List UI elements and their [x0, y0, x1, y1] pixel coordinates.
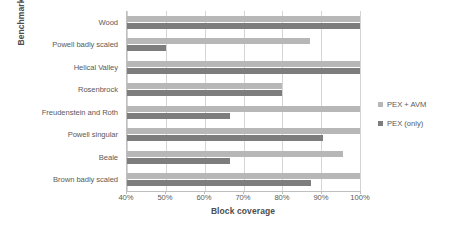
y-axis-tick-labels: WoodPowell badly scaledHelical ValleyRos… — [24, 11, 122, 191]
y-axis-tick-label: Powell singular — [24, 124, 122, 147]
legend-item-label: PEX + AVM — [387, 100, 426, 109]
bar — [127, 151, 343, 157]
legend-item[interactable]: PEX + AVM — [378, 100, 426, 109]
y-axis-tick-label: Powell badly scaled — [24, 34, 122, 57]
x-axis-tick-label: 40% — [118, 193, 133, 202]
legend-item-label: PEX (only) — [387, 119, 423, 128]
legend-swatch-icon — [378, 102, 383, 107]
bar — [127, 68, 360, 74]
bar — [127, 135, 323, 141]
gridline — [360, 11, 361, 191]
bar-groups — [127, 11, 360, 191]
bar — [127, 158, 230, 164]
bar — [127, 61, 360, 67]
bar — [127, 38, 310, 44]
legend-swatch-icon — [378, 121, 383, 126]
bar — [127, 16, 360, 22]
y-axis-tick-label: Wood — [24, 11, 122, 34]
bar — [127, 23, 360, 29]
x-axis-tick-label: 100% — [350, 193, 369, 202]
bar-group — [127, 34, 360, 57]
x-axis-tick-label: 90% — [313, 193, 328, 202]
x-axis-tick-label: 60% — [196, 193, 211, 202]
bar — [127, 106, 360, 112]
bar — [127, 45, 166, 51]
x-axis-tick-label: 70% — [235, 193, 250, 202]
bar-group — [127, 146, 360, 169]
y-axis-tick-label: Helical Valley — [24, 56, 122, 79]
bar — [127, 90, 282, 96]
bar-group — [127, 169, 360, 192]
bar-chart: Benchmark WoodPowell badly scaledHelical… — [0, 0, 453, 228]
bar — [127, 128, 360, 134]
legend-item[interactable]: PEX (only) — [378, 119, 426, 128]
plot-area — [126, 11, 360, 191]
y-axis-tick-label: Brown badly scaled — [24, 169, 122, 192]
y-axis-tick-label: Beale — [24, 146, 122, 169]
x-axis-tick-label: 80% — [274, 193, 289, 202]
x-axis-tick-label: 50% — [157, 193, 172, 202]
bar-group — [127, 56, 360, 79]
bar-group — [127, 101, 360, 124]
bar-group — [127, 79, 360, 102]
bar — [127, 173, 360, 179]
bar — [127, 83, 282, 89]
y-axis-tick-label: Rosenbrock — [24, 79, 122, 102]
bar-group — [127, 11, 360, 34]
bar-group — [127, 124, 360, 147]
bar — [127, 113, 230, 119]
x-axis-tick-labels: 40%50%60%70%80%90%100% — [126, 193, 360, 205]
y-axis-tick-label: Freudenstein and Roth — [24, 101, 122, 124]
x-axis-title: Block coverage — [126, 206, 360, 216]
chart-legend: PEX + AVMPEX (only) — [378, 100, 426, 128]
bar — [127, 180, 311, 186]
